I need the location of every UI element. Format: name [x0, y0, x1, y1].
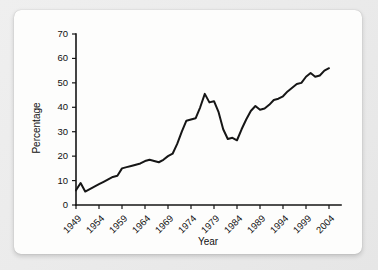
- y-tick-label: 50: [57, 77, 68, 88]
- x-tick-label: 1999: [291, 213, 314, 236]
- x-tick-label: 1984: [222, 213, 245, 236]
- data-series-percentage: [76, 68, 329, 191]
- x-tick-label: 1959: [107, 213, 130, 236]
- y-tick-label: 30: [57, 126, 68, 137]
- x-tick-label: 1979: [199, 213, 222, 236]
- y-tick-label: 20: [57, 150, 68, 161]
- y-axis-title: Percentage: [31, 102, 42, 154]
- y-tick-label: 10: [57, 175, 68, 186]
- y-tick-label: 40: [57, 101, 68, 112]
- x-tick-label: 1969: [153, 213, 176, 236]
- y-tick-label: 0: [63, 199, 68, 210]
- y-axis-tick-labels: 010203040506070: [57, 28, 68, 210]
- x-tick-label: 1949: [61, 213, 84, 236]
- x-tick-label: 1964: [130, 213, 153, 236]
- x-tick-label: 1954: [84, 213, 107, 236]
- x-tick-label: 2004: [314, 213, 337, 236]
- x-tick-label: 1974: [176, 213, 199, 236]
- y-tick-label: 70: [57, 28, 68, 39]
- x-axis-tick-labels: 1949195419591964196919741979198419891994…: [61, 213, 337, 236]
- x-axis-title: Year: [198, 236, 219, 247]
- x-tick-label: 1989: [245, 213, 268, 236]
- x-tick-label: 1994: [268, 213, 291, 236]
- y-tick-label: 60: [57, 52, 68, 63]
- line-chart: 010203040506070 194919541959196419691974…: [0, 0, 378, 270]
- figure-root: 010203040506070 194919541959196419691974…: [0, 0, 378, 270]
